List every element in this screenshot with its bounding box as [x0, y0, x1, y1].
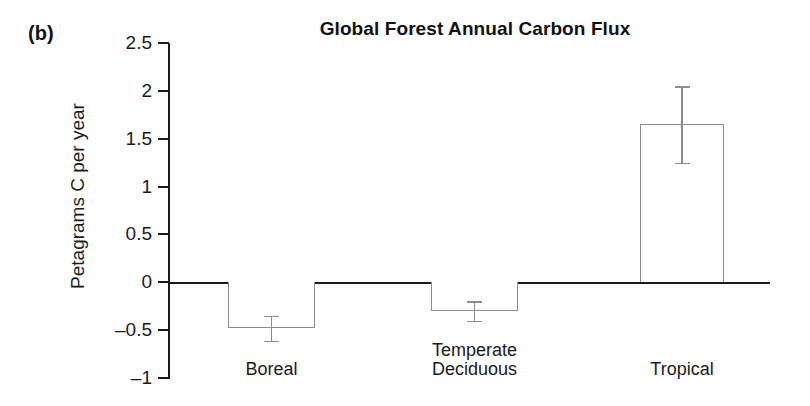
y-axis-tick-label: 2.5: [94, 33, 152, 52]
category-label-1: Temperate Deciduous: [385, 341, 565, 378]
y-axis-tick-label: 1: [94, 177, 152, 196]
y-axis-tick-label: 1.5: [94, 129, 152, 148]
errorbar-cap-2-upper: [675, 86, 690, 88]
plot-area: 2.521.510.50–0.5–1 BorealTemperate Decid…: [0, 0, 810, 406]
category-label-2: Tropical: [592, 360, 772, 379]
errorbar-cap-2-lower: [675, 163, 690, 165]
errorbar-cap-0-lower: [264, 341, 279, 343]
errorbar-cap-0-upper: [264, 316, 279, 318]
y-axis-tick: [158, 281, 169, 283]
errorbar-stem-0: [271, 316, 273, 341]
y-axis-tick: [158, 233, 169, 235]
y-axis-tick: [158, 90, 169, 92]
category-label-0: Boreal: [182, 360, 362, 379]
y-axis-tick: [158, 138, 169, 140]
y-axis-tick-label: 0.5: [94, 224, 152, 243]
y-axis-tick-label: –0.5: [94, 320, 152, 339]
y-axis-tick: [158, 329, 169, 331]
errorbar-stem-1: [474, 301, 476, 320]
errorbar-cap-1-lower: [467, 321, 482, 323]
errorbar-stem-2: [681, 86, 683, 163]
y-axis-tick: [158, 42, 169, 44]
y-axis-tick-label: –1: [94, 368, 152, 387]
y-axis-tick: [158, 186, 169, 188]
y-axis-tick-label: 2: [94, 81, 152, 100]
y-axis-tick-label: 0: [94, 272, 152, 291]
y-axis-tick: [158, 377, 169, 379]
errorbar-cap-1-upper: [467, 301, 482, 303]
